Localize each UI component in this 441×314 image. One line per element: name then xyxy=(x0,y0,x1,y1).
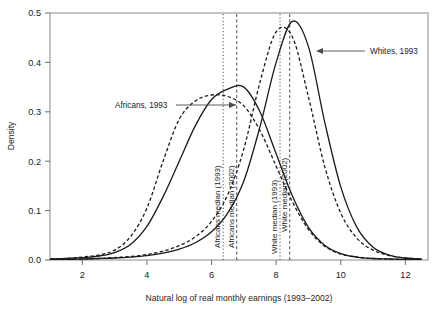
x-axis-label: Natural log of real monthly earnings (19… xyxy=(146,293,333,303)
y-tick-label: 0.1 xyxy=(28,206,41,216)
density-chart-figure: 246810120.00.10.20.30.40.5 Africans medi… xyxy=(0,0,441,314)
callout-label-whites-1993: Whites, 1993 xyxy=(370,47,418,56)
y-tick-label: 0.0 xyxy=(28,255,41,265)
y-axis-label: Density xyxy=(6,121,16,150)
y-tick-label: 0.3 xyxy=(28,107,41,117)
x-tick-label: 4 xyxy=(144,270,149,280)
callout-label-africans-1993: Africans, 1993 xyxy=(115,101,168,110)
median-label-africans-median-1993: Africans median (1993) xyxy=(213,165,222,248)
median-label-white-median-1993: White median (1993) xyxy=(270,179,279,254)
x-tick-label: 10 xyxy=(336,270,346,280)
median-label-white-median-2002: White median (2002) xyxy=(280,157,289,232)
x-tick-label: 2 xyxy=(80,270,85,280)
y-tick-label: 0.5 xyxy=(28,8,41,18)
y-tick-label: 0.4 xyxy=(28,58,41,68)
chart-canvas: 246810120.00.10.20.30.40.5 Africans medi… xyxy=(0,0,441,314)
x-tick-label: 8 xyxy=(274,270,279,280)
x-tick-label: 6 xyxy=(209,270,214,280)
median-label-africans-median-2002: Africans median (2002) xyxy=(227,165,236,248)
x-tick-label: 12 xyxy=(400,270,410,280)
y-tick-label: 0.2 xyxy=(28,157,41,167)
